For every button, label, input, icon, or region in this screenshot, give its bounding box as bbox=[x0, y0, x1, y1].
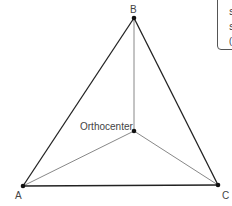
info-box-line: S bbox=[229, 7, 232, 17]
edge-ca bbox=[23, 185, 218, 186]
segment-orthocenter-c bbox=[134, 131, 218, 185]
info-box-line: S bbox=[229, 22, 232, 32]
point-b bbox=[132, 16, 137, 21]
point-c bbox=[216, 183, 221, 188]
edge-ab bbox=[23, 18, 134, 186]
info-box: S S ( bbox=[217, 0, 232, 50]
edge-bc bbox=[134, 18, 218, 185]
label-c: C bbox=[222, 190, 229, 201]
orthocenter-diagram: A B C Orthocenter bbox=[0, 0, 232, 206]
point-a bbox=[21, 184, 26, 189]
label-orthocenter: Orthocenter bbox=[80, 121, 133, 132]
info-box-line: ( bbox=[229, 36, 232, 46]
label-b: B bbox=[130, 4, 137, 15]
segment-orthocenter-a bbox=[23, 131, 134, 186]
label-a: A bbox=[15, 190, 22, 201]
